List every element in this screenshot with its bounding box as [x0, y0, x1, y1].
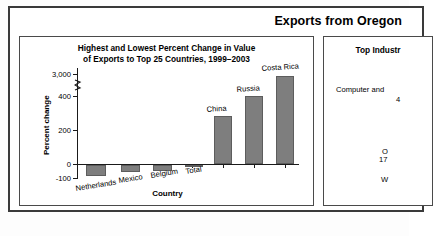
industry-line-4: 17 [379, 155, 387, 164]
x-axis-title: Country [20, 189, 315, 198]
y-tick-mark [73, 130, 78, 131]
bar-label-russia: Russia [236, 83, 260, 94]
y-tick-label: -100 [56, 174, 71, 183]
y-tick-label: 400 [58, 92, 71, 101]
bar-netherlands [86, 165, 106, 176]
y-tick-mark [73, 164, 78, 165]
x-tick [285, 164, 286, 168]
page-title: Exports from Oregon [8, 10, 404, 32]
industry-line-1: Computer and [336, 85, 384, 94]
bar-china [214, 116, 232, 164]
plot-area: 3,000 400 200 0 -100 [77, 68, 299, 190]
chart-title-line-1: Highest and Lowest Percent Change in Val… [20, 43, 313, 54]
axis-break-icon [74, 79, 83, 91]
x-tick [254, 164, 255, 168]
bar-label-costa-rica: Costa Rica [261, 61, 299, 73]
y-tick-label: 0 [67, 160, 71, 169]
y-tick-label: 3,000 [52, 70, 71, 79]
y-tick-mark [73, 96, 78, 97]
bar-costa-rica [276, 76, 294, 164]
y-tick-mark [73, 178, 78, 179]
bar-mexico [121, 165, 140, 172]
industry-panel: Top Industr Computer and 4 O 17 W [323, 36, 433, 206]
y-tick-mark [73, 74, 78, 75]
chart-title: Highest and Lowest Percent Change in Val… [20, 43, 313, 64]
industry-panel-title: Top Industr [324, 45, 432, 55]
industry-line-5: W [381, 175, 388, 184]
bar-russia [245, 96, 263, 164]
cat-label-mexico: Mexico [118, 172, 143, 185]
y-tick-label: 200 [58, 126, 71, 135]
cat-label-total: Total [185, 164, 202, 175]
x-tick [223, 164, 224, 168]
bar-label-china: China [206, 104, 226, 114]
industry-line-2: 4 [396, 95, 400, 104]
chart-panel: Highest and Lowest Percent Change in Val… [19, 36, 314, 206]
y-axis-title: Percent change [42, 95, 51, 155]
